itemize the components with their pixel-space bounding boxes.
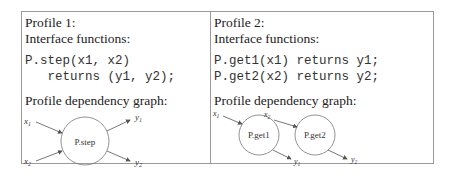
output-y1-label: y1 (134, 112, 142, 123)
profile-1-cell: Profile 1: Interface functions: P.step(x… (22, 12, 210, 163)
edge-x1-to-step (36, 122, 62, 133)
output-y2-label: y2 (134, 157, 142, 168)
node-p-step-label: P.step (75, 137, 96, 147)
profile-2-cell: Profile 2: Interface functions: P.get1(x… (211, 12, 434, 163)
input-x1-label: x1 (212, 109, 220, 119)
input-x1-label: x1 (23, 116, 31, 127)
output-y2-label: y2 (350, 155, 358, 165)
profile-2-dependency-graph: P.get1 P.get2 x1 x2 y1 y2 (211, 12, 434, 165)
edge-x2-to-get2 (274, 120, 297, 127)
input-x2-label: x2 (263, 110, 271, 120)
profile-1-dependency-graph: P.step x1 x2 y1 y2 (22, 12, 210, 165)
profiles-table: Profile 1: Interface functions: P.step(x… (21, 11, 434, 164)
edge-x2-to-step (36, 151, 62, 161)
input-x2-label: x2 (23, 156, 31, 167)
node-p-get2-label: P.get2 (304, 130, 326, 140)
edge-step-to-y1 (107, 120, 130, 131)
edge-get1-to-y1 (273, 150, 291, 159)
node-p-get1-label: P.get1 (248, 130, 270, 140)
edge-step-to-y2 (107, 151, 130, 161)
edge-get2-to-y2 (328, 150, 347, 159)
edge-x1-to-get1 (223, 116, 242, 124)
output-y1-label: y1 (293, 157, 301, 167)
